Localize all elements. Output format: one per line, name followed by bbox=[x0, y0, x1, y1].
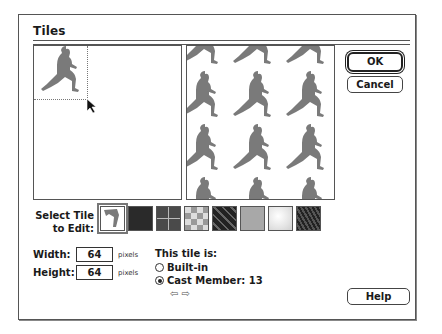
width-unit: pixels bbox=[118, 251, 138, 259]
cast-member-nav: ⇦⇨ bbox=[170, 288, 193, 299]
tile-selection-rect[interactable] bbox=[34, 46, 88, 100]
tile-swatch-stripes[interactable] bbox=[212, 206, 237, 231]
select-tile-label-line2: to Edit: bbox=[32, 222, 94, 235]
tile-swatch-dark[interactable] bbox=[128, 206, 153, 231]
tile-swatch-grid[interactable] bbox=[156, 206, 181, 231]
tile-edit-area[interactable] bbox=[33, 45, 182, 200]
tile-swatch-cast-member[interactable] bbox=[100, 206, 125, 231]
radio-circle-built-in[interactable] bbox=[155, 263, 164, 272]
height-field[interactable]: 64 bbox=[76, 265, 113, 280]
dialog-title: Tiles bbox=[33, 24, 66, 38]
ok-button[interactable]: OK bbox=[347, 52, 403, 72]
cancel-button[interactable]: Cancel bbox=[347, 76, 403, 93]
width-field[interactable]: 64 bbox=[76, 247, 113, 262]
select-tile-label: Select Tile to Edit: bbox=[32, 209, 94, 235]
tiles-dialog: Tiles OK Cancel Select Tile to Edit: bbox=[18, 14, 416, 320]
next-cast-arrow-icon[interactable]: ⇨ bbox=[181, 288, 192, 299]
tile-swatch-marble[interactable] bbox=[268, 206, 293, 231]
height-unit: pixels bbox=[118, 269, 138, 277]
prev-cast-arrow-icon[interactable]: ⇦ bbox=[170, 288, 181, 299]
width-label: Width: bbox=[33, 249, 71, 260]
help-button[interactable]: Help bbox=[347, 288, 410, 305]
radio-cast-member-label: Cast Member: 13 bbox=[167, 275, 263, 286]
tile-swatch-checker[interactable] bbox=[184, 206, 209, 231]
tile-swatch-row bbox=[100, 206, 321, 231]
runner-leg-icon bbox=[101, 207, 124, 230]
radio-cast-member[interactable]: Cast Member: 13 bbox=[155, 275, 263, 286]
radio-built-in[interactable]: Built-in bbox=[155, 262, 208, 273]
tile-swatch-gray[interactable] bbox=[240, 206, 265, 231]
arrow-cursor-icon bbox=[86, 98, 98, 114]
radio-built-in-label: Built-in bbox=[167, 262, 208, 273]
tiled-runner-pattern bbox=[187, 46, 334, 199]
runner-figure-icon bbox=[34, 46, 87, 99]
select-tile-label-line1: Select Tile bbox=[32, 209, 94, 222]
tile-source-label: This tile is: bbox=[155, 248, 217, 259]
tile-swatch-weave[interactable] bbox=[296, 206, 321, 231]
height-label: Height: bbox=[33, 267, 75, 278]
radio-circle-cast-member[interactable] bbox=[155, 276, 164, 285]
tile-preview-area bbox=[186, 45, 335, 200]
